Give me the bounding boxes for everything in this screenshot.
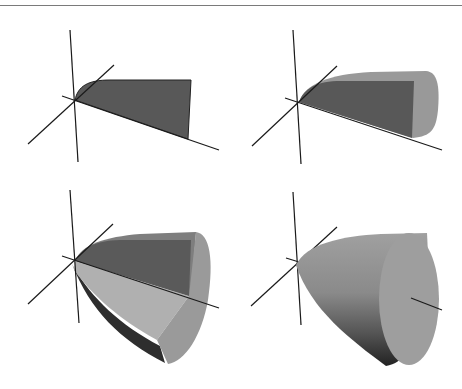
panel-2-partial <box>231 0 462 190</box>
panel-1-region <box>0 0 231 190</box>
panel-4-full-solid <box>231 180 462 389</box>
region-shape <box>75 80 191 139</box>
end-cap <box>379 233 439 365</box>
panel-3-partial <box>0 180 231 389</box>
region-shape <box>299 81 414 138</box>
